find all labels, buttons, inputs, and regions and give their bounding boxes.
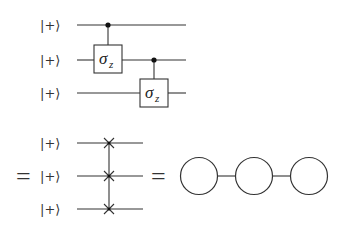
- equals-sign-2: =: [151, 162, 166, 191]
- gate-1-subscript: z: [108, 58, 114, 70]
- input-ket-1: |+⟩: [40, 18, 60, 33]
- input-ket-5: |+⟩: [40, 169, 60, 184]
- top-circuit: |+⟩ |+⟩ |+⟩ σ z σ z: [40, 18, 186, 107]
- input-ket-2: |+⟩: [40, 53, 60, 68]
- input-ket-3: |+⟩: [40, 86, 60, 101]
- bottom-circuit: |+⟩ |+⟩ |+⟩: [40, 136, 143, 217]
- control-dot-2: [151, 57, 156, 62]
- circuit-diagram: |+⟩ |+⟩ |+⟩ σ z σ z = |+⟩ |+⟩ |+⟩: [0, 0, 345, 230]
- graph-node-3: [291, 158, 328, 195]
- gate-2-subscript: z: [154, 92, 160, 104]
- gate-1-label: σ: [99, 49, 108, 68]
- input-ket-4: |+⟩: [40, 136, 60, 151]
- graph-node-1: [181, 158, 218, 195]
- graph-state: [181, 158, 328, 195]
- graph-node-2: [236, 158, 273, 195]
- gate-2-label: σ: [145, 83, 154, 102]
- equals-sign-1: =: [16, 162, 31, 191]
- control-dot-1: [105, 22, 110, 27]
- input-ket-6: |+⟩: [40, 202, 60, 217]
